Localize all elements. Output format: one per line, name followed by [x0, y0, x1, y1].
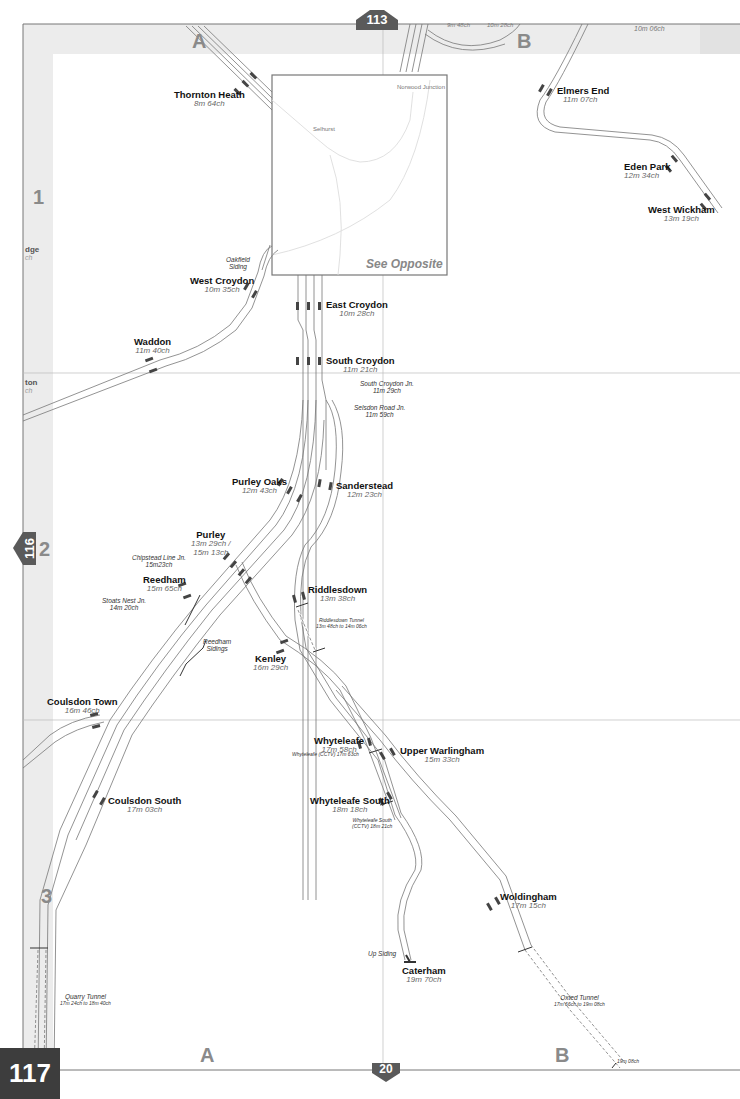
- edge-fragment-left-4: ch: [25, 387, 32, 394]
- station-riddlesdown[interactable]: Riddlesdown13m 38ch: [308, 585, 367, 604]
- station-thornton-heath[interactable]: Thornton Heath8m 64ch: [174, 90, 245, 109]
- station-south-croydon[interactable]: South Croydon11m 21ch: [326, 356, 395, 375]
- station-woldingham[interactable]: Woldingham17m 15ch: [500, 892, 557, 911]
- note-whyteleafe-cctv: Whyteleafe (CCTV) 17m 63ch: [292, 752, 359, 758]
- station-waddon[interactable]: Waddon11m 40ch: [134, 337, 171, 356]
- station-purley-oaks[interactable]: Purley Oaks12m 43ch: [232, 477, 287, 496]
- edge-fragment-left-2: ch: [25, 254, 32, 261]
- see-opposite-label: See Opposite: [366, 257, 443, 271]
- note-oxted-tunnel: Oxted Tunnel17m 66ch to 19m 08ch: [554, 994, 605, 1008]
- inset-station-norwood-junction: Norwood Junction: [397, 84, 445, 91]
- note-chipstead-line-jn: Chipstead Line Jn.15m23ch: [132, 554, 186, 569]
- grid-col-A-bottom: A: [200, 1044, 214, 1067]
- note-boundary-mileage: 19m 08ch: [617, 1059, 639, 1065]
- edge-fragment-left-1: dge: [25, 245, 39, 254]
- station-kenley[interactable]: Kenley16m 29ch: [253, 654, 288, 673]
- grid-col-B-top: B: [517, 30, 531, 53]
- station-eden-park[interactable]: Eden Park12m 34ch: [624, 162, 670, 181]
- page-link-west[interactable]: 116: [22, 532, 37, 566]
- grid-row-2: 2: [39, 538, 50, 561]
- edge-fragment-left-3: ton: [25, 378, 37, 387]
- station-west-wickham[interactable]: West Wickham13m 19ch: [648, 205, 715, 224]
- station-whyteleafe-south[interactable]: Whyteleafe South18m 18ch: [310, 796, 390, 815]
- note-oakfield-siding: OakfieldSiding: [226, 256, 250, 271]
- note-whyteleafe-south-cctv: Whyteleafe South(CCTV) 18m 21ch: [352, 818, 392, 830]
- page-link-north[interactable]: 113: [358, 12, 396, 27]
- station-caterham[interactable]: Caterham19m 70ch: [402, 966, 446, 985]
- note-up-siding: Up Siding: [368, 950, 396, 957]
- station-coulsdon-town[interactable]: Coulsdon Town16m 46ch: [47, 697, 118, 716]
- note-quarry-tunnel: Quarry Tunnel17m 24ch to 18m 40ch: [60, 993, 111, 1007]
- note-stoats-nest-jn: Stoats Nest Jn.14m 20ch: [102, 597, 146, 612]
- note-selsdon-road-jn: Selsdon Road Jn.11m 59ch: [354, 404, 405, 419]
- station-upper-warlingham[interactable]: Upper Warlingham15m 33ch: [400, 746, 484, 765]
- edge-mileage-top-1: 9m 48ch: [447, 22, 470, 29]
- grid-row-1: 1: [33, 186, 44, 209]
- station-sanderstead[interactable]: Sanderstead12m 23ch: [336, 481, 393, 500]
- station-reedham[interactable]: Reedham15m 65ch: [143, 575, 186, 594]
- grid-col-B-bottom: B: [555, 1044, 569, 1067]
- note-south-croydon-jn: South Croydon Jn.11m 29ch: [360, 380, 414, 395]
- page-number: 117: [0, 1058, 60, 1089]
- note-riddlesdown-tunnel: Riddlesdown Tunnel13m 48ch to 14m 06ch: [316, 618, 367, 630]
- station-west-croydon[interactable]: West Croydon10m 35ch: [190, 276, 254, 295]
- station-purley[interactable]: Purley13m 29ch /15m 13ch: [191, 530, 231, 558]
- inset-box: [272, 75, 447, 275]
- grid-row-3: 3: [41, 885, 52, 908]
- note-reedham-sidings: ReedhamSidings: [203, 638, 231, 653]
- station-east-croydon[interactable]: East Croydon10m 28ch: [326, 300, 388, 319]
- page-link-south[interactable]: 20: [373, 1062, 399, 1076]
- inset-station-selhurst: Selhurst: [313, 126, 335, 133]
- grid-col-A-top: A: [192, 30, 206, 53]
- station-elmers-end[interactable]: Elmers End11m 07ch: [557, 86, 609, 105]
- edge-mileage-top-2: 10m 28ch: [487, 22, 513, 29]
- edge-mileage-top-3: 10m 06ch: [634, 25, 665, 33]
- station-coulsdon-south[interactable]: Coulsdon South17m 03ch: [108, 796, 181, 815]
